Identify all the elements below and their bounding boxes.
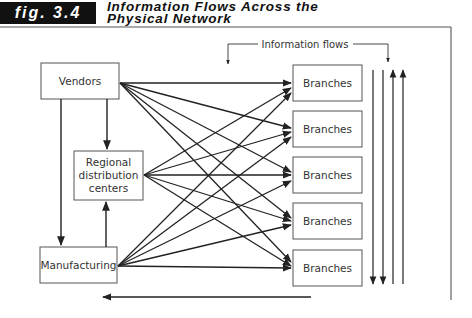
branches-label-1: Branches — [303, 77, 352, 89]
node-vendors: Vendors — [41, 63, 119, 99]
regional-label-line-3: centers — [89, 182, 128, 194]
node-branches-4: Branches — [293, 203, 362, 239]
branches-label-2: Branches — [303, 123, 352, 135]
node-branches-3: Branches — [293, 157, 362, 193]
information-flows-label: Information flows — [262, 39, 349, 50]
branches-label-5: Branches — [303, 262, 352, 274]
regional-label-line-2: distribution — [79, 169, 139, 181]
branches-label-3: Branches — [303, 169, 352, 181]
vendors-label: Vendors — [59, 75, 101, 87]
node-branches-5: Branches — [293, 250, 362, 286]
node-branches-1: Branches — [293, 65, 362, 101]
branches-label-4: Branches — [303, 215, 352, 227]
distribution-edges — [118, 83, 291, 268]
information-flows-annotation: Information flows — [228, 39, 388, 64]
regional-label-line-1: Regional — [86, 156, 131, 168]
node-regional-distribution-centers: Regional distribution centers — [74, 151, 143, 200]
information-flow-arrows — [373, 70, 403, 284]
node-branches-2: Branches — [293, 111, 362, 147]
network-diagram: Information flows Vendors Regional distr… — [0, 0, 472, 318]
manufacturing-label: Manufacturing — [40, 259, 116, 271]
node-manufacturing: Manufacturing — [40, 247, 117, 283]
